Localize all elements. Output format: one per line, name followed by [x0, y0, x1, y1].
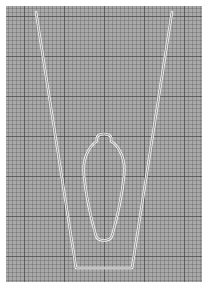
outer-trapezoid-outline: [36, 12, 172, 268]
sewing-pattern-drawing: [0, 0, 208, 288]
inner-loop-outline: [84, 134, 125, 241]
